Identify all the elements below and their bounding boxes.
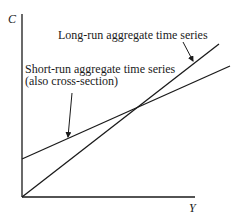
x-axis-label: Y (189, 201, 197, 215)
long-run-label: Long-run aggregate time series (58, 28, 208, 42)
short-run-label-line2: (also cross-section) (25, 74, 118, 88)
short-run-arrow-icon (68, 93, 72, 137)
y-axis-label: C (8, 12, 17, 26)
long-run-arrow-icon (183, 42, 193, 61)
consumption-function-diagram: C Y Long-run aggregate time series Short… (0, 0, 245, 221)
